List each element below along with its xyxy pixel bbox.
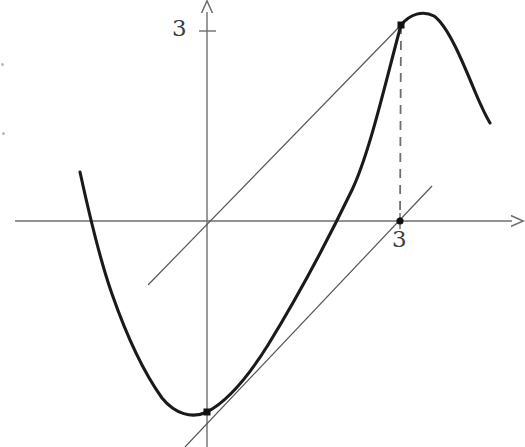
y-axis-point bbox=[204, 409, 211, 416]
x-axis-point bbox=[396, 217, 403, 224]
x-axis-label-3: 3 bbox=[392, 228, 407, 251]
function-curve bbox=[80, 13, 490, 415]
graph-svg bbox=[0, 0, 525, 447]
tangency-point bbox=[398, 22, 405, 29]
figure-canvas: 3 3 bbox=[0, 0, 525, 447]
y-axis-label-3: 3 bbox=[172, 17, 187, 40]
page-artifact-mark bbox=[2, 132, 5, 135]
page-artifact-mark bbox=[1, 63, 4, 66]
dashed-drop-line bbox=[400, 25, 401, 221]
